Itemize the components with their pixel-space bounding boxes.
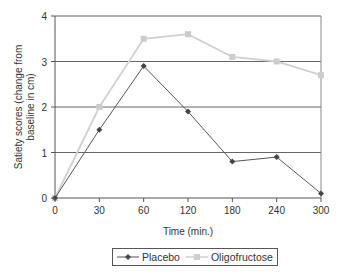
y-tick-label: 3 xyxy=(41,57,47,68)
series-layer xyxy=(52,31,324,201)
x-tick-label: 120 xyxy=(180,205,197,216)
placebo-marker-icon xyxy=(117,252,139,262)
data-point xyxy=(96,104,102,110)
x-tick-label: 30 xyxy=(94,205,106,216)
data-point xyxy=(318,72,324,78)
series-placebo xyxy=(52,63,324,201)
x-axis-ticks: 03060120180240300 xyxy=(52,198,330,216)
y-tick-label: 1 xyxy=(41,148,47,159)
legend-label: Placebo xyxy=(142,251,180,263)
x-tick-label: 0 xyxy=(52,205,58,216)
legend: Placebo Oligofructose xyxy=(112,248,278,266)
legend-item-oligofructose: Oligofructose xyxy=(186,251,273,263)
x-axis-label: Time (min.) xyxy=(163,226,213,237)
data-point xyxy=(96,127,102,133)
x-tick-label: 300 xyxy=(313,205,330,216)
gridlines xyxy=(55,16,321,198)
series-oligofructose xyxy=(52,31,324,201)
x-tick-label: 60 xyxy=(138,205,150,216)
y-tick-label: 0 xyxy=(41,193,47,204)
x-tick-label: 180 xyxy=(224,205,241,216)
data-point xyxy=(229,54,235,60)
data-point xyxy=(141,36,147,42)
x-tick-label: 240 xyxy=(268,205,285,216)
y-axis-ticks: 01234 xyxy=(41,11,55,204)
y-axis-label-line2: baseline in cm) xyxy=(25,73,36,140)
legend-item-placebo: Placebo xyxy=(117,251,180,263)
y-tick-label: 4 xyxy=(41,11,47,22)
legend-label: Oligofructose xyxy=(211,251,273,263)
y-tick-label: 2 xyxy=(41,102,47,113)
data-point xyxy=(274,59,280,65)
line-chart: 01234 03060120180240300 Time (min.) Sati… xyxy=(0,0,339,245)
data-point xyxy=(185,31,191,37)
oligofructose-marker-icon xyxy=(186,252,208,262)
y-axis-label-line1: Satiety scores (change from xyxy=(13,45,24,170)
